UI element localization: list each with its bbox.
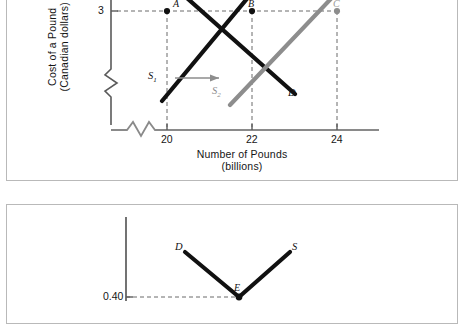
y-axis-title-line2: (Canadian dollars) <box>58 2 70 91</box>
ytick-label-040: 0.40 <box>103 291 123 303</box>
y-axis-title-top: Cost of a Pound (Canadian dollars) <box>47 0 71 103</box>
point-label-b: B <box>248 0 254 9</box>
xtick-label-24: 24 <box>331 134 343 146</box>
demand-curve-top <box>152 0 295 94</box>
chart-svg-bottom <box>7 205 459 325</box>
chart-panel-bottom: 0.40 D S E <box>6 204 458 324</box>
point-marker-a <box>164 8 170 14</box>
xtick-label-22: 22 <box>246 134 258 146</box>
xtick-label-20: 20 <box>161 134 173 146</box>
point-label-e: E <box>234 282 240 293</box>
x-axis-title-top: Number of Pounds (billions) <box>167 149 317 173</box>
supply2-label-sub: 2 <box>217 91 221 99</box>
supply-label-bottom: S <box>292 241 297 253</box>
demand-label-top: D <box>288 87 296 99</box>
shift-arrow-head <box>210 75 219 82</box>
ytick-label-3: 3 <box>98 5 104 17</box>
y-axis-title-line1: Cost of a Pound <box>46 8 58 86</box>
y-axis-with-break <box>105 0 117 125</box>
demand-label-bottom: D <box>175 241 183 253</box>
point-marker-e <box>236 294 243 301</box>
chart-panel-top: Cost of a Pound (Canadian dollars) 3 20 … <box>6 0 458 181</box>
x-axis-title-line2: (billions) <box>221 160 262 172</box>
point-label-a: A <box>173 0 179 9</box>
x-axis-title-line1: Number of Pounds <box>197 148 288 160</box>
demand-curve-bottom <box>185 252 239 297</box>
supply1-label-sub: 1 <box>153 76 157 84</box>
plot-area-top: Cost of a Pound (Canadian dollars) 3 20 … <box>7 0 457 180</box>
supply2-label: S2 <box>212 85 221 100</box>
supply1-label: S1 <box>148 70 157 85</box>
point-label-c: C <box>333 0 340 9</box>
plot-area-bottom: 0.40 D S E <box>7 205 457 323</box>
y-axis-title-bottom <box>95 213 107 325</box>
supply-curve-bottom <box>239 252 290 297</box>
